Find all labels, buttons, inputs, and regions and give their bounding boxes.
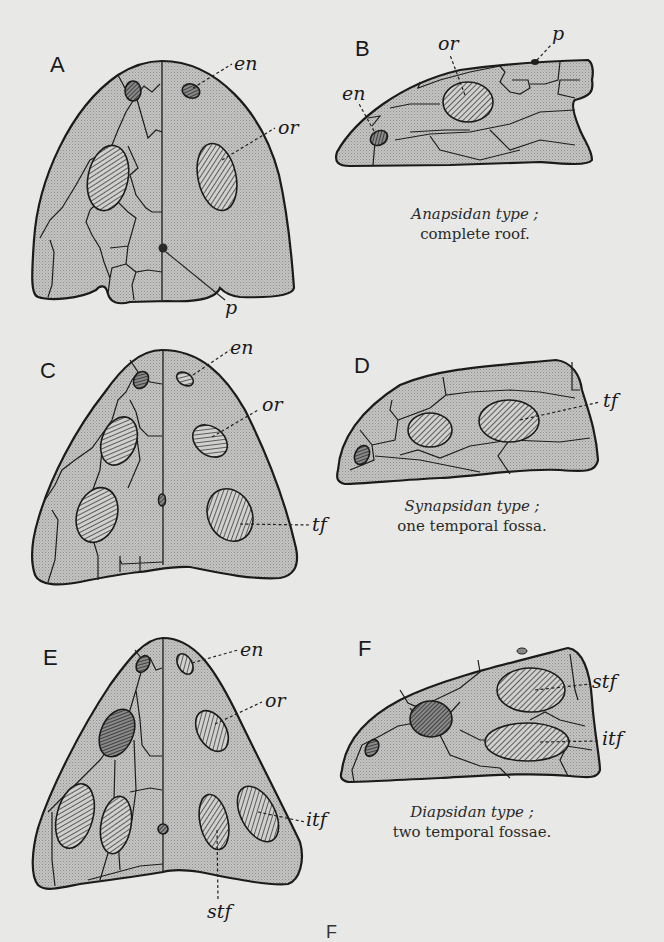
panel-e: E en or itf stf — [33, 638, 330, 922]
skull-outline-c — [32, 350, 297, 584]
parietal-foramen-e — [158, 824, 168, 834]
label-or-e: or — [265, 689, 287, 711]
caption-b-type: Anapsidan type ; — [375, 204, 575, 224]
caption-b-desc: complete roof. — [375, 224, 575, 244]
orbit-d — [408, 413, 452, 447]
label-stf-e: stf — [207, 900, 234, 922]
caption-f: Diapsidan type ; two temporal fossae. — [372, 802, 572, 842]
caption-b: Anapsidan type ; complete roof. — [375, 204, 575, 244]
panel-letter-d: D — [354, 353, 370, 378]
panel-letter-e: E — [43, 645, 58, 670]
label-or-b: or — [438, 32, 460, 54]
figure-footer-fragment: F — [326, 922, 337, 942]
skull-outline-e — [33, 638, 302, 889]
label-itf-f: itf — [602, 727, 626, 749]
panel-letter-b: B — [355, 36, 370, 61]
panel-f: F stf itf — [341, 636, 626, 782]
label-or-c: or — [262, 393, 284, 415]
temporal-fossa-supra-f — [497, 668, 565, 712]
caption-d: Synapsidan type ; one temporal fossa. — [372, 496, 572, 536]
skull-outline-a — [32, 61, 294, 303]
label-p-b: p — [552, 22, 564, 44]
parietal-foramen-f — [517, 648, 527, 654]
label-en-a: en — [234, 52, 257, 74]
label-en-b: en — [342, 82, 365, 104]
caption-d-desc: one temporal fossa. — [372, 516, 572, 536]
label-itf-e: itf — [306, 808, 330, 830]
orbit-b — [443, 82, 493, 122]
orbit-f — [410, 701, 452, 737]
panel-letter-c: C — [40, 358, 56, 383]
nostril-left-a — [125, 81, 141, 101]
parietal-foramen-c — [159, 494, 166, 506]
label-en-e: en — [240, 638, 263, 660]
label-en-c: en — [230, 336, 253, 358]
panel-d: D tf — [337, 353, 621, 484]
panel-letter-a: A — [50, 52, 65, 77]
parietal-foramen-a — [159, 244, 168, 253]
label-tf-d: tf — [603, 389, 621, 411]
panel-a: A en or p — [32, 52, 300, 318]
panel-letter-f: F — [358, 636, 371, 661]
label-tf-c: tf — [312, 513, 330, 535]
label-p-a: p — [225, 296, 237, 318]
label-or-a: or — [278, 116, 300, 138]
label-stf-f: stf — [592, 670, 619, 692]
temporal-fossa-infra-f — [485, 723, 569, 761]
temporal-fossa-d — [479, 400, 539, 442]
panel-b: B or en p — [336, 22, 593, 166]
caption-f-desc: two temporal fossae. — [372, 822, 572, 842]
caption-f-type: Diapsidan type ; — [372, 802, 572, 822]
panel-c: C en or tf — [32, 336, 329, 584]
caption-d-type: Synapsidan type ; — [372, 496, 572, 516]
skull-outline-d — [337, 360, 598, 484]
